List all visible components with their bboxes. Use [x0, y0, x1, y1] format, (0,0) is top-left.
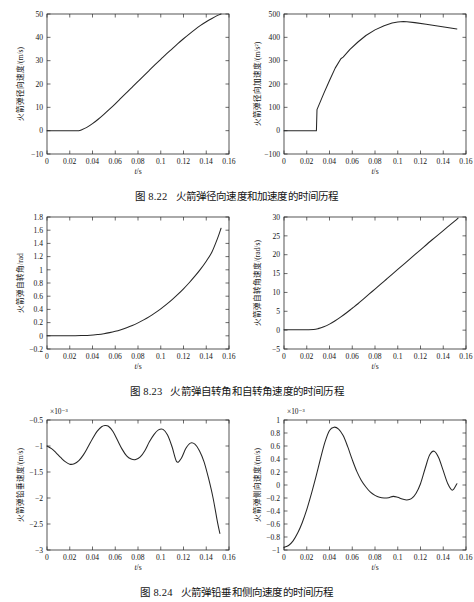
x-tick-label: 0.06 — [109, 553, 122, 562]
figure-caption-text: 火箭弹径向速度和加速度的时间历程 — [176, 191, 339, 202]
x-tick-label: 0.14 — [200, 352, 213, 361]
x-axis-title: t/s — [134, 167, 141, 176]
x-axis-title: t/s — [134, 563, 141, 572]
x-tick-label: 0.12 — [177, 553, 190, 562]
x-tick-label: 0.1 — [156, 553, 166, 562]
y-tick-label: 500 — [269, 10, 281, 19]
x-tick-label: 0.1 — [156, 352, 166, 361]
x-tick-label: 0.06 — [109, 352, 122, 361]
data-curve — [47, 425, 220, 533]
y-axis-title: 火箭弹自转角/rad — [15, 253, 25, 313]
y-tick-label: 1.6 — [34, 226, 44, 235]
x-tick-label: 0.06 — [346, 352, 359, 361]
x-tick-label: 0.14 — [200, 553, 213, 562]
chart-radial-acceleration: 00.020.040.060.080.10.120.140.16−1000100… — [237, 0, 474, 188]
x-tick-label: 0 — [282, 352, 286, 361]
x-tick-label: 0.06 — [346, 553, 359, 562]
y-tick-label: −0.8 — [266, 533, 280, 542]
y-tick-label: 20 — [272, 250, 280, 259]
data-curve — [284, 21, 457, 130]
y-tick-label: 0 — [276, 126, 280, 135]
x-tick-label: 0.14 — [200, 157, 213, 166]
y-tick-label: 0.6 — [34, 292, 44, 301]
y-tick-label: 0.8 — [34, 279, 44, 288]
y-tick-label: 1.2 — [34, 252, 44, 261]
y-tick-label: −5 — [272, 345, 280, 354]
y-tick-label: 15 — [272, 269, 280, 278]
y-tick-label: −0.4 — [266, 507, 280, 516]
figure-page: 00.020.040.060.080.10.120.140.16−1001020… — [0, 0, 474, 602]
chart-radial-velocity: 00.020.040.060.080.10.120.140.16−1001020… — [0, 0, 237, 188]
y-tick-label: 0.2 — [34, 318, 44, 327]
y-tick-label: 10 — [272, 288, 280, 297]
figure-caption-text: 火箭弹自转角和自转角速度的时间历程 — [170, 386, 343, 397]
figure-caption-8-23: 图 8.23火箭弹自转角和自转角速度的时间历程 — [0, 383, 474, 398]
y-tick-label: 1 — [39, 266, 43, 275]
y-tick-label: 0.4 — [34, 305, 44, 314]
data-curve — [47, 228, 221, 336]
figure-block-8-24: ×10⁻³00.020.040.060.080.10.120.140.16−3−… — [0, 398, 474, 599]
y-tick-label: −0.2 — [29, 345, 43, 354]
x-tick-label: 0.04 — [323, 157, 336, 166]
figure-caption-number: 图 8.24 — [140, 587, 172, 598]
x-tick-label: 0.16 — [459, 352, 472, 361]
x-tick-label: 0 — [45, 157, 49, 166]
plot-frame — [47, 217, 229, 349]
x-tick-label: 0.02 — [300, 157, 313, 166]
figure-block-8-23: 00.020.040.060.080.10.120.140.16−0.200.2… — [0, 203, 474, 398]
x-tick-label: 0.1 — [393, 157, 403, 166]
x-tick-label: 0.08 — [131, 352, 144, 361]
x-tick-label: 0.14 — [437, 157, 450, 166]
y-tick-label: −0.6 — [266, 520, 280, 529]
x-tick-label: 0 — [45, 352, 49, 361]
y-tick-label: 0 — [39, 126, 43, 135]
x-tick-label: 0.02 — [63, 553, 76, 562]
x-tick-label: 0.14 — [437, 553, 450, 562]
data-curve — [47, 14, 221, 131]
figure-8-23-panels: 00.020.040.060.080.10.120.140.16−0.200.2… — [0, 203, 474, 383]
plot-frame — [47, 14, 229, 154]
x-tick-label: 0.06 — [346, 157, 359, 166]
x-tick-label: 0.16 — [222, 352, 235, 361]
y-tick-label: 0 — [276, 481, 280, 490]
figure-caption-number: 图 8.23 — [130, 386, 162, 397]
x-tick-label: 0.12 — [177, 157, 190, 166]
y-tick-label: 400 — [269, 33, 281, 42]
y-tick-label: −2 — [35, 494, 43, 503]
x-tick-label: 0.02 — [63, 352, 76, 361]
y-axis-title: 火箭弹铅垂速度/(m/s) — [15, 447, 25, 522]
y-tick-label: 20 — [35, 80, 43, 89]
y-tick-label: 0.6 — [271, 442, 281, 451]
x-tick-label: 0.16 — [222, 157, 235, 166]
y-tick-label: 0.2 — [271, 468, 281, 477]
x-axis-title: t/s — [371, 563, 378, 572]
chart-vertical-velocity: ×10⁻³00.020.040.060.080.10.120.140.16−3−… — [0, 398, 237, 584]
x-tick-label: 0.16 — [459, 553, 472, 562]
x-tick-label: 0 — [282, 553, 286, 562]
y-axis-title: 火箭弹径向速度/(m/s) — [15, 46, 25, 121]
x-tick-label: 0.1 — [156, 157, 166, 166]
x-tick-label: 0.06 — [109, 157, 122, 166]
y-tick-label: −1.5 — [29, 468, 43, 477]
y-tick-label: 10 — [35, 103, 43, 112]
y-tick-label: 0.8 — [271, 429, 281, 438]
data-curve — [284, 218, 458, 330]
y-tick-label: −1 — [35, 442, 43, 451]
x-tick-label: 0.08 — [131, 553, 144, 562]
x-tick-label: 0.08 — [368, 352, 381, 361]
figure-caption-text: 火箭弹铅垂和侧向速度的时间历程 — [181, 587, 334, 598]
y-tick-label: 1.8 — [34, 213, 44, 222]
data-curve — [284, 427, 457, 547]
y-axis-exponent: ×10⁻³ — [50, 407, 68, 416]
figure-8-22-panels: 00.020.040.060.080.10.120.140.16−1001020… — [0, 0, 474, 188]
x-tick-label: 0.02 — [300, 352, 313, 361]
chart-lateral-velocity: ×10⁻³00.020.040.060.080.10.120.140.16−1−… — [237, 398, 474, 584]
x-tick-label: 0.16 — [222, 553, 235, 562]
x-tick-label: 0.04 — [86, 352, 99, 361]
y-tick-label: −1 — [272, 546, 280, 555]
figure-caption-8-22: 图 8.22火箭弹径向速度和加速度的时间历程 — [0, 188, 474, 203]
y-tick-label: 40 — [35, 33, 43, 42]
y-axis-title: 火箭弹侧向速度/(m/s) — [252, 447, 262, 522]
y-tick-label: −100 — [264, 150, 280, 159]
y-tick-label: 1 — [276, 416, 280, 425]
